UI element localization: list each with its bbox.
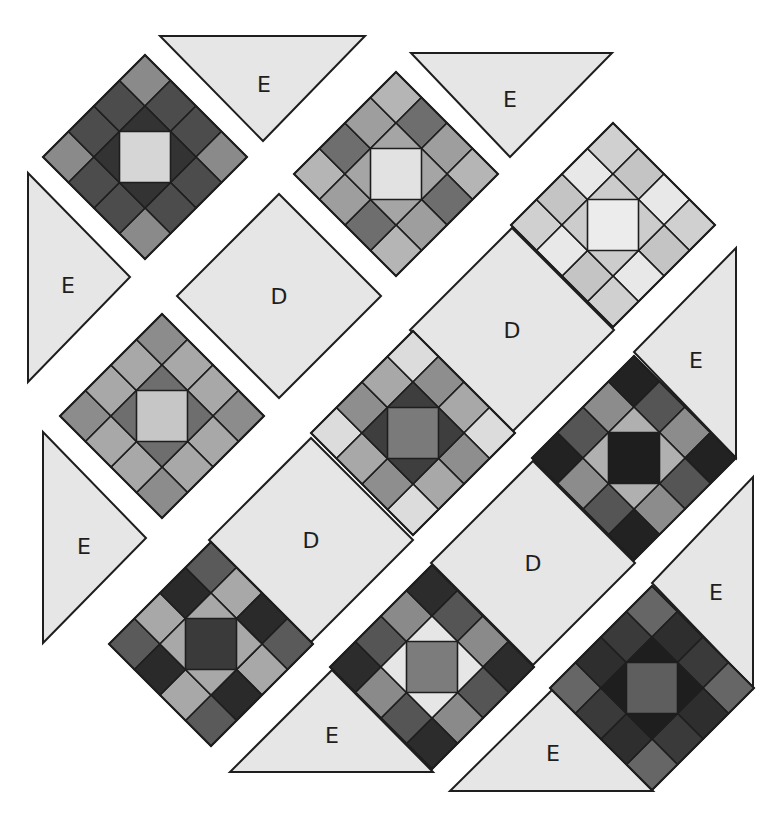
block-center-square xyxy=(137,391,188,442)
piece-label-e: E xyxy=(257,72,271,97)
piece-label-e: E xyxy=(689,348,703,373)
piece-label-e: E xyxy=(546,741,560,766)
block-center-square xyxy=(186,619,237,670)
pieced-blocks-layer xyxy=(43,55,754,790)
block-center-square xyxy=(609,433,660,484)
block-center-square xyxy=(588,200,639,251)
piece-label-e: E xyxy=(709,580,723,605)
piece-label-e: E xyxy=(61,273,75,298)
block-center-square xyxy=(371,149,422,200)
block-center-square xyxy=(388,408,439,459)
piece-label-d: D xyxy=(303,528,320,553)
piece-label-e: E xyxy=(77,534,91,559)
piece-label-d: D xyxy=(525,551,542,576)
block-center-square xyxy=(407,642,458,693)
block-center-square xyxy=(120,132,171,183)
piece-label-d: D xyxy=(271,284,288,309)
piece-label-e: E xyxy=(503,87,517,112)
piece-label-e: E xyxy=(325,723,339,748)
block-center-square xyxy=(627,663,678,714)
piece-label-d: D xyxy=(504,318,521,343)
quilt-assembly-diagram: EEEEEEEEDDDD xyxy=(0,0,781,824)
